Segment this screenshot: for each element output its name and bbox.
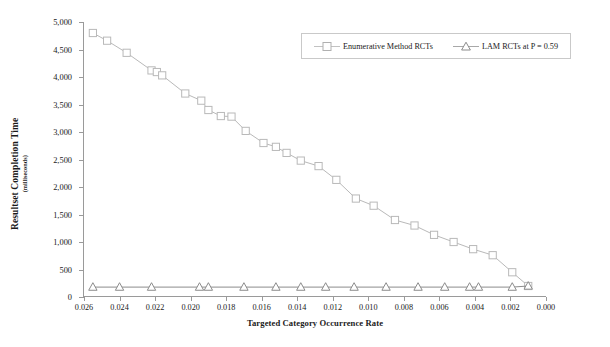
legend-item-enumerative[interactable]: Enumerative Method RCTs bbox=[314, 41, 433, 52]
x-axis-tick bbox=[120, 297, 121, 301]
x-axis-tick bbox=[84, 297, 85, 301]
triangle-marker-icon bbox=[441, 283, 449, 291]
x-axis-tick bbox=[510, 297, 511, 301]
triangle-marker-icon bbox=[195, 283, 203, 291]
x-axis-tick-labels: 0.0260.0240.0220.0200.0180.0160.0140.012… bbox=[84, 303, 546, 317]
square-marker-icon bbox=[370, 202, 377, 209]
square-marker-icon bbox=[123, 49, 130, 56]
triangle-marker-icon bbox=[240, 283, 248, 291]
x-axis-tick-label: 0.004 bbox=[466, 303, 484, 312]
plot-area bbox=[84, 22, 546, 297]
series-line bbox=[93, 286, 528, 287]
x-axis-tick bbox=[297, 297, 298, 301]
x-axis-tick bbox=[191, 297, 192, 301]
x-axis-tick-label: 0.016 bbox=[252, 303, 270, 312]
y-axis-tick-label: 3,500 bbox=[53, 100, 72, 109]
square-marker-icon bbox=[198, 97, 205, 104]
legend-label-enumerative: Enumerative Method RCTs bbox=[343, 42, 433, 51]
x-axis-tick-label: 0.022 bbox=[146, 303, 164, 312]
x-axis-tick-label: 0.000 bbox=[537, 303, 555, 312]
square-marker-icon bbox=[411, 222, 418, 229]
square-marker-icon bbox=[352, 195, 359, 202]
x-axis-tick bbox=[404, 297, 405, 301]
square-marker-icon bbox=[489, 252, 496, 259]
x-axis-tick bbox=[262, 297, 263, 301]
square-marker-icon bbox=[470, 246, 477, 253]
y-axis-tick-label: 3,000 bbox=[53, 128, 72, 137]
y-axis-tick-label: 5,000 bbox=[53, 18, 72, 27]
x-axis-tick bbox=[155, 297, 156, 301]
y-axis-tick-label: 1,000 bbox=[53, 238, 72, 247]
series-enumerative bbox=[89, 29, 532, 289]
square-marker-icon bbox=[391, 216, 398, 223]
y-axis-tick-label: 2,000 bbox=[53, 183, 72, 192]
x-axis-tick-label: 0.018 bbox=[217, 303, 235, 312]
triangle-marker-icon bbox=[147, 283, 155, 291]
x-axis-tick-label: 0.020 bbox=[181, 303, 199, 312]
triangle-marker-icon bbox=[350, 283, 358, 291]
x-axis-tick bbox=[333, 297, 334, 301]
square-marker-icon bbox=[297, 157, 304, 164]
series-plot bbox=[84, 22, 546, 297]
square-marker-icon bbox=[242, 127, 249, 134]
y-axis-tick-label: 4,500 bbox=[53, 45, 72, 54]
triangle-marker-icon bbox=[115, 283, 123, 291]
y-axis-tick-label: 500 bbox=[59, 265, 72, 274]
series-lam bbox=[89, 282, 533, 291]
triangle-marker-icon bbox=[321, 283, 329, 291]
y-axis-tick-label: 4,000 bbox=[53, 73, 72, 82]
x-axis-tick-label: 0.014 bbox=[288, 303, 306, 312]
triangle-marker-icon bbox=[474, 283, 482, 291]
x-axis-tick-label: 0.006 bbox=[430, 303, 448, 312]
y-axis-tick-label: 0 bbox=[68, 293, 72, 302]
square-marker-icon bbox=[509, 269, 516, 276]
x-axis-tick-label: 0.008 bbox=[395, 303, 413, 312]
square-marker-icon bbox=[315, 163, 322, 170]
square-marker-icon bbox=[260, 139, 267, 146]
triangle-marker-icon bbox=[89, 283, 97, 291]
x-axis-tick-label: 0.002 bbox=[501, 303, 519, 312]
x-axis-tick-label: 0.026 bbox=[75, 303, 93, 312]
triangle-marker-icon bbox=[297, 283, 305, 291]
square-marker-icon bbox=[450, 238, 457, 245]
x-axis-tick bbox=[368, 297, 369, 301]
square-marker-icon bbox=[182, 90, 189, 97]
square-marker-icon bbox=[333, 176, 340, 183]
x-axis-tick bbox=[226, 297, 227, 301]
legend-label-lam: LAM RCTs at P = 0.59 bbox=[482, 42, 558, 51]
chart-figure: Resultset Completion Time (milliseconds)… bbox=[0, 0, 610, 347]
x-axis-tick-label: 0.012 bbox=[324, 303, 342, 312]
square-marker-icon bbox=[205, 106, 212, 113]
y-axis-tick-labels: 05001,0001,5002,0002,5003,0003,5004,0004… bbox=[0, 22, 80, 297]
triangle-marker-icon bbox=[453, 41, 479, 52]
x-axis-tick-label: 0.010 bbox=[359, 303, 377, 312]
triangle-marker-icon bbox=[414, 283, 422, 291]
triangle-marker-icon bbox=[272, 283, 280, 291]
triangle-marker-icon bbox=[465, 283, 473, 291]
chart-legend: Enumerative Method RCTs LAM RCTs at P = … bbox=[301, 33, 571, 59]
triangle-marker-icon bbox=[204, 283, 212, 291]
y-axis-tick-label: 1,500 bbox=[53, 210, 72, 219]
square-marker-icon bbox=[272, 143, 279, 150]
x-axis-tick bbox=[439, 297, 440, 301]
x-axis-tick bbox=[546, 297, 547, 301]
y-axis-tick-label: 2,500 bbox=[53, 155, 72, 164]
square-marker-icon bbox=[314, 41, 340, 52]
square-marker-icon bbox=[159, 72, 166, 79]
x-axis-tick-label: 0.024 bbox=[110, 303, 128, 312]
square-marker-icon bbox=[228, 113, 235, 120]
square-marker-icon bbox=[104, 37, 111, 44]
triangle-marker-icon bbox=[382, 283, 390, 291]
square-marker-icon bbox=[89, 29, 96, 36]
legend-item-lam[interactable]: LAM RCTs at P = 0.59 bbox=[453, 41, 558, 52]
square-marker-icon bbox=[217, 112, 224, 119]
square-marker-icon bbox=[283, 149, 290, 156]
square-marker-icon bbox=[430, 231, 437, 238]
x-axis-title: Targeted Category Occurrence Rate bbox=[84, 318, 546, 328]
x-axis-tick bbox=[475, 297, 476, 301]
